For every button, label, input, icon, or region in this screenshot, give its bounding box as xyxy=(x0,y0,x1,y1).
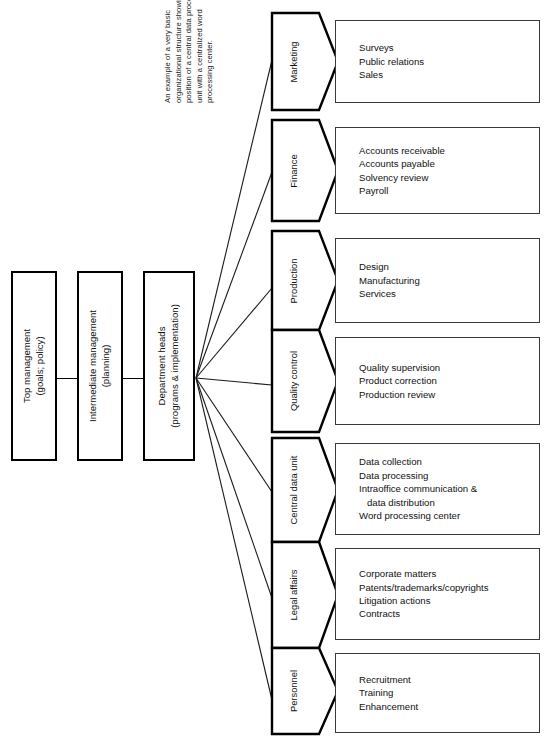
detail-item: Public relations xyxy=(359,55,424,68)
org-chart-diagram: An example of a very basic organizationa… xyxy=(0,0,552,737)
dept-label-quality-control: Quality control xyxy=(288,351,299,411)
detail-item: Recruitment xyxy=(359,673,418,686)
detail-item: Word processing center xyxy=(359,509,477,522)
connector-intermediate-to-department xyxy=(122,378,144,379)
detail-box-marketing: Surveys Public relations Sales xyxy=(335,20,540,103)
detail-item: Surveys xyxy=(359,41,424,54)
detail-item: Solvency review xyxy=(359,171,445,184)
detail-item: Data collection xyxy=(359,455,477,468)
detail-item: Accounts payable xyxy=(359,157,445,170)
detail-item: Data processing xyxy=(359,469,477,482)
detail-list-finance: Accounts receivable Accounts payable Sol… xyxy=(336,144,445,198)
detail-box-legal-affairs: Corporate matters Patents/trademarks/cop… xyxy=(335,548,540,640)
detail-list-personnel: Recruitment Training Enhancement xyxy=(336,673,418,713)
mgmt-box-top-management: Top management (goals; policy) xyxy=(11,271,57,461)
detail-list-legal-affairs: Corporate matters Patents/trademarks/cop… xyxy=(336,567,489,621)
fan-line-legal-affairs xyxy=(196,378,272,598)
dept-label-personnel: Personnel xyxy=(288,670,299,712)
dept-arrow-central-data-unit: Central data unit xyxy=(271,437,333,543)
detail-box-production: Design Manufacturing Services xyxy=(335,238,540,323)
dept-arrow-marketing: Marketing xyxy=(271,12,333,111)
detail-item: Production review xyxy=(359,388,440,401)
detail-item: Manufacturing xyxy=(359,274,420,287)
detail-item: Sales xyxy=(359,68,424,81)
fan-line-marketing xyxy=(196,60,272,378)
mgmt-box-department-heads: Department heads (programs & implementat… xyxy=(143,271,195,461)
dept-label-finance: Finance xyxy=(288,154,299,187)
mgmt-label-department-heads: Department heads (programs & implementat… xyxy=(156,304,181,428)
diagram-caption: An example of a very basic organizationa… xyxy=(163,0,247,103)
detail-item: Quality supervision xyxy=(359,361,440,374)
mgmt-label-top-management: Top management (goals; policy) xyxy=(21,329,46,403)
dept-arrow-production: Production xyxy=(271,230,333,331)
detail-item: Contracts xyxy=(359,607,489,620)
detail-item: Product correction xyxy=(359,374,440,387)
fan-line-personnel xyxy=(196,378,272,700)
fan-line-finance xyxy=(196,172,272,378)
dept-label-production: Production xyxy=(288,258,299,303)
mgmt-line-2: (programs & implementation) xyxy=(169,304,182,428)
detail-box-finance: Accounts receivable Accounts payable Sol… xyxy=(335,127,540,214)
mgmt-line-2: (goals; policy) xyxy=(34,329,47,403)
detail-list-quality-control: Quality supervision Product correction P… xyxy=(336,361,440,401)
mgmt-line-1: Department heads xyxy=(156,327,167,406)
detail-item: Accounts receivable xyxy=(359,144,445,157)
fan-line-quality-control xyxy=(196,378,272,385)
detail-item: Enhancement xyxy=(359,700,418,713)
detail-list-marketing: Surveys Public relations Sales xyxy=(336,41,424,81)
detail-item: Training xyxy=(359,686,418,699)
dept-label-legal-affairs: Legal affairs xyxy=(288,570,299,621)
detail-item: Payroll xyxy=(359,184,445,197)
dept-arrow-quality-control: Quality control xyxy=(271,329,333,433)
detail-box-personnel: Recruitment Training Enhancement xyxy=(335,653,540,733)
detail-item: Patents/trademarks/copyrights xyxy=(359,581,489,594)
detail-box-central-data-unit: Data collection Data processing Intraoff… xyxy=(335,443,540,535)
detail-item: data distribution xyxy=(359,496,477,509)
mgmt-line-2: (planning) xyxy=(100,310,113,422)
detail-list-central-data-unit: Data collection Data processing Intraoff… xyxy=(336,455,477,522)
dept-arrow-finance: Finance xyxy=(271,119,333,222)
caption-text: An example of a very basic organizationa… xyxy=(163,0,216,103)
dept-arrow-legal-affairs: Legal affairs xyxy=(271,541,333,649)
fan-line-central-data xyxy=(196,378,272,492)
detail-item: Intraoffice communication & xyxy=(359,482,477,495)
mgmt-line-1: Top management xyxy=(21,329,32,403)
detail-item: Litigation actions xyxy=(359,594,489,607)
mgmt-line-1: Intermediate management xyxy=(87,310,98,422)
dept-label-marketing: Marketing xyxy=(288,41,299,82)
connector-top-to-intermediate xyxy=(56,378,78,379)
detail-box-quality-control: Quality supervision Product correction P… xyxy=(335,337,540,425)
detail-list-production: Design Manufacturing Services xyxy=(336,260,420,300)
mgmt-box-intermediate-management: Intermediate management (planning) xyxy=(77,271,123,461)
detail-item: Design xyxy=(359,260,420,273)
detail-item: Corporate matters xyxy=(359,567,489,580)
mgmt-label-intermediate-management: Intermediate management (planning) xyxy=(87,310,112,422)
dept-label-central-data-unit: Central data unit xyxy=(288,456,299,525)
detail-item: Services xyxy=(359,287,420,300)
dept-arrow-personnel: Personnel xyxy=(271,647,333,735)
fan-line-production xyxy=(196,288,272,378)
